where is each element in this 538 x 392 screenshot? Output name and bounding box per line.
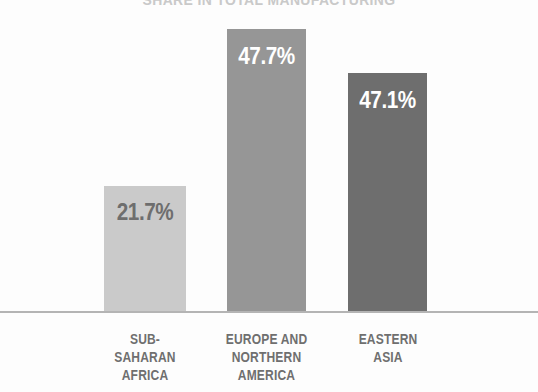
- category-label-line: EUROPE AND: [210, 330, 323, 348]
- category-label-europe-and-northern-america: EUROPE AND NORTHERN AMERICA: [210, 330, 323, 384]
- category-label-line: SUB-: [93, 330, 196, 348]
- category-label-line: AFRICA: [93, 366, 196, 384]
- bar-chart: SHARE IN TOTAL MANUFACTURING 21.7% 47.7%…: [0, 0, 538, 392]
- bar-europe-and-northern-america[interactable]: [227, 29, 306, 312]
- plot-area: 21.7% 47.7% 47.1%: [0, 0, 538, 312]
- bar-value-sub-saharan-africa: 21.7%: [108, 199, 182, 226]
- bar-group-sub-saharan-africa: 21.7%: [104, 186, 186, 312]
- bar-value-europe-and-northern-america: 47.7%: [231, 43, 302, 70]
- category-label-line: EASTERN: [336, 330, 439, 348]
- bar-group-europe-and-northern-america: 47.7%: [227, 29, 306, 312]
- category-label-eastern-asia: EASTERN ASIA: [336, 330, 439, 366]
- x-axis-category-labels: SUB- SAHARAN AFRICA EUROPE AND NORTHERN …: [0, 330, 538, 392]
- bar-value-eastern-asia: 47.1%: [352, 87, 423, 114]
- category-label-line: ASIA: [336, 348, 439, 366]
- category-label-sub-saharan-africa: SUB- SAHARAN AFRICA: [93, 330, 196, 384]
- x-axis-baseline: [0, 311, 538, 313]
- category-label-line: NORTHERN: [210, 348, 323, 366]
- category-label-line: AMERICA: [210, 366, 323, 384]
- category-label-line: SAHARAN: [93, 348, 196, 366]
- bar-group-eastern-asia: 47.1%: [348, 73, 427, 312]
